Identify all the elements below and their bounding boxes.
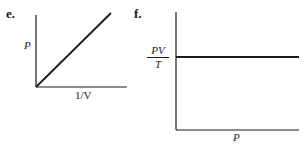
chart-canvas xyxy=(0,0,306,146)
chart-e-data-line xyxy=(36,13,111,87)
chart-f-ylabel-denominator: T xyxy=(147,58,169,70)
chart-f-xlabel: P xyxy=(233,131,240,143)
chart-e-xlabel: 1/V xyxy=(75,89,92,101)
chart-e-ylabel: P xyxy=(24,39,31,51)
chart-f-ylabel-numerator: PV xyxy=(147,44,169,58)
chart-f-ylabel: PV T xyxy=(147,44,169,70)
